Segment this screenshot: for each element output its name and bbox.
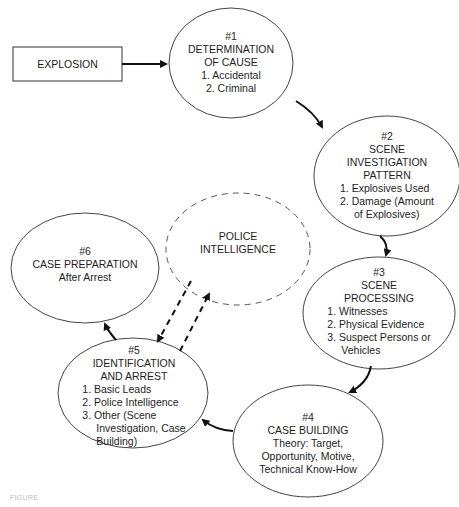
node-1-item-2: 2. Criminal (181, 82, 281, 95)
node-4-theory-line-1: Theory: Target, (248, 437, 368, 450)
arrow-3-to-4 (350, 366, 371, 392)
police-intelligence-text: POLICE INTELLIGENCE (188, 230, 288, 256)
node-4-number: #4 (248, 411, 368, 424)
node-5-number: #5 (73, 344, 195, 357)
node-1-title-line-2: OF CAUSE (181, 56, 281, 69)
node-5-title-line-1: IDENTIFICATION (73, 357, 195, 370)
node-1-number: #1 (181, 30, 281, 43)
police-intelligence-line-1: POLICE (188, 230, 288, 243)
arrow-5-to-6 (105, 324, 116, 340)
node-6-number: #6 (25, 245, 145, 258)
arrow-1-to-2 (296, 101, 322, 127)
node-5-list: 1. Basic Leads 2. Police Intelligence 3.… (82, 383, 185, 448)
node-3-item-2: 2. Physical Evidence (327, 318, 430, 331)
arrow-2-to-3 (380, 236, 387, 255)
node-2-item-1: 1. Explosives Used (340, 182, 434, 195)
node-3-number: #3 (314, 266, 444, 279)
node-3-item-3: 3. Suspect Persons or (327, 331, 430, 344)
node-6-text: #6 CASE PREPARATION After Arrest (25, 245, 145, 284)
node-6-subtitle: After Arrest (25, 271, 145, 284)
node-1-item-1: 1. Accidental (181, 69, 281, 82)
node-4-title-line-1: CASE BUILDING (248, 424, 368, 437)
node-4-theory-line-3: Technical Know-How (248, 463, 368, 476)
node-2-title-line-1: SCENE (327, 143, 447, 156)
node-3-item-1: 1. Witnesses (327, 305, 430, 318)
node-1-title-line-1: DETERMINATION (181, 43, 281, 56)
node-2-title-line-3: PATTERN (327, 169, 447, 182)
figure-caption: FIGURE (10, 494, 38, 501)
node-5-item-1: 1. Basic Leads (82, 383, 185, 396)
node-3-list: 1. Witnesses 2. Physical Evidence 3. Sus… (327, 305, 430, 357)
dashed-arrow-5-to-police (180, 294, 209, 351)
dashed-arrow-police-to-5 (158, 281, 191, 341)
node-2-text: #2 SCENE INVESTIGATION PATTERN 1. Explos… (327, 130, 447, 221)
node-1-text: #1 DETERMINATION OF CAUSE 1. Accidental … (181, 30, 281, 95)
node-2-item-2: 2. Damage (Amount (340, 195, 434, 208)
node-5-title-line-2: AND ARREST (73, 370, 195, 383)
police-intelligence-line-2: INTELLIGENCE (188, 243, 288, 256)
node-2-number: #2 (327, 130, 447, 143)
node-2-title-line-2: INVESTIGATION (327, 156, 447, 169)
node-2-list: 1. Explosives Used 2. Damage (Amount of … (340, 182, 434, 221)
node-3-title-line-1: SCENE (314, 279, 444, 292)
node-5-item-3: 3. Other (Scene (82, 409, 185, 422)
node-3-item-3-cont: Vehicles (327, 344, 430, 357)
node-6-title-line-1: CASE PREPARATION (25, 258, 145, 271)
node-5-item-2: 2. Police Intelligence (82, 396, 185, 409)
node-3-text: #3 SCENE PROCESSING 1. Witnesses 2. Phys… (314, 266, 444, 357)
node-4-theory-line-2: Opportunity, Motive, (248, 450, 368, 463)
node-5-item-3-cont-2: Building) (82, 435, 185, 448)
node-3-title-line-2: PROCESSING (314, 292, 444, 305)
arrow-4-to-5 (203, 420, 233, 431)
node-4-text: #4 CASE BUILDING Theory: Target, Opportu… (248, 411, 368, 476)
node-2-item-2-cont: of Explosives) (340, 208, 434, 221)
node-5-item-3-cont-1: Investigation, Case (82, 422, 185, 435)
explosion-label: EXPLOSION (13, 47, 122, 81)
node-5-text: #5 IDENTIFICATION AND ARREST 1. Basic Le… (73, 344, 195, 448)
